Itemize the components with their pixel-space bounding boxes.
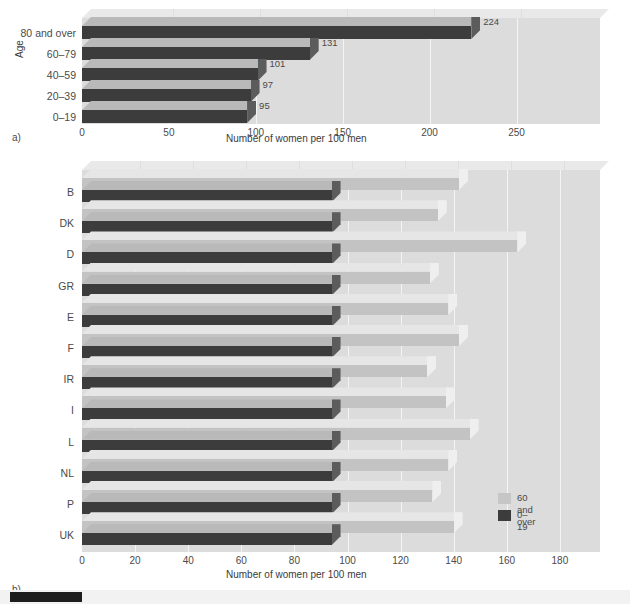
category-label: DK [10, 217, 74, 229]
gridline-top-face [173, 9, 174, 18]
bar-front-face [82, 533, 332, 545]
bar-top-face [82, 399, 341, 408]
gridline [517, 18, 518, 124]
gridline-top-face [434, 9, 435, 18]
gridline-top-face [352, 161, 353, 170]
panel-b-x-axis-title: Number of women per 100 men [226, 569, 367, 580]
gridline-top-face [347, 9, 348, 18]
bar-top-face [82, 181, 341, 190]
gridline-top-face [405, 161, 406, 170]
bar-front-face [82, 440, 332, 452]
x-tick-50: 50 [139, 127, 199, 138]
bar-top-face [82, 493, 341, 502]
x-tick-0: 0 [52, 127, 112, 138]
bar-top-face [82, 212, 341, 221]
category-label: F [10, 342, 74, 354]
bar-top-face [82, 294, 457, 303]
bar-top-face [82, 306, 341, 315]
category-label: 80 and over [6, 27, 76, 39]
panel-a-letter: a) [12, 132, 21, 143]
bar-top-face [82, 325, 468, 334]
data-label: 131 [322, 37, 338, 48]
panel-b-chart: BDKDGREFIRILNLPUK 0204060801001201401601… [0, 152, 630, 590]
bar-front-face [82, 408, 332, 420]
bar-front-face [82, 110, 247, 123]
bar-top-face [82, 356, 436, 365]
x-tick-20: 20 [105, 555, 165, 566]
category-label: 40–59 [6, 69, 76, 81]
category-label: L [10, 436, 74, 448]
bar-top-face [82, 462, 341, 471]
legend-label-0-19: 0–19 [517, 509, 528, 533]
data-label: 101 [270, 58, 286, 69]
category-label: 0–19 [6, 111, 76, 123]
bar-top-face [82, 59, 267, 68]
data-label: 224 [483, 16, 499, 27]
bar-top-face [82, 419, 479, 428]
gridline [560, 170, 561, 552]
gridline-top-face [140, 161, 141, 170]
bar-top-face [82, 263, 439, 272]
x-tick-40: 40 [158, 555, 218, 566]
category-label: I [10, 404, 74, 416]
bar-top-face [82, 337, 341, 346]
bar-front-face [82, 315, 332, 327]
bar-top-face [82, 387, 455, 396]
gridline-top-face [246, 161, 247, 170]
category-label: 20–39 [6, 90, 76, 102]
footer-strip [0, 590, 630, 604]
panel-a-chart: 2241311019795 80 and over60–7940–5920–39… [0, 0, 630, 148]
bar-top-face [82, 101, 256, 110]
bar-top-face [82, 524, 341, 533]
category-label: UK [10, 529, 74, 541]
bar-front-face [82, 89, 251, 102]
bar-top-face [82, 17, 480, 26]
footer-marker-bar [10, 592, 82, 602]
legend-swatch-60-and-over [498, 493, 511, 504]
x-tick-0: 0 [52, 555, 112, 566]
gridline-top-face [299, 161, 300, 170]
data-label: 95 [259, 100, 270, 111]
gridline-top-face [193, 161, 194, 170]
category-label: NL [10, 467, 74, 479]
bar-front-face [82, 221, 332, 233]
category-label: P [10, 498, 74, 510]
panel-a-plot-top-face [82, 9, 609, 18]
x-tick-80: 80 [264, 555, 324, 566]
bar-top-face [82, 431, 341, 440]
category-label: E [10, 311, 74, 323]
category-label: IR [10, 373, 74, 385]
bar-top-face [82, 38, 319, 47]
bar-top-face [82, 80, 260, 89]
category-label: D [10, 248, 74, 260]
gridline-top-face [511, 161, 512, 170]
bar-top-face [82, 243, 341, 252]
x-tick-140: 140 [424, 555, 484, 566]
panel-a-x-axis-title: Number of women per 100 men [226, 133, 367, 144]
bar-top-face [82, 169, 468, 178]
gridline-top-face [458, 161, 459, 170]
category-label: B [10, 186, 74, 198]
data-label: 97 [263, 79, 274, 90]
panel-a-y-axis-title: Age [14, 40, 25, 58]
bar-top-face [82, 275, 341, 284]
bar-front-face [82, 377, 332, 389]
gridline-top-face [260, 9, 261, 18]
gridline-top-face [564, 161, 565, 170]
panel-b-plot-top-face [82, 161, 609, 170]
category-label: GR [10, 280, 74, 292]
bar-top-face [82, 231, 526, 240]
x-tick-200: 200 [400, 127, 460, 138]
gridline-top-face [521, 9, 522, 18]
x-tick-120: 120 [371, 555, 431, 566]
bar-top-face [82, 512, 463, 521]
bar-top-face [82, 368, 341, 377]
x-tick-160: 160 [477, 555, 537, 566]
x-tick-180: 180 [530, 555, 590, 566]
legend-swatch-0-19 [498, 510, 511, 521]
gridline [454, 170, 455, 552]
bar-front-face [82, 68, 258, 81]
x-tick-100: 100 [318, 555, 378, 566]
bar-top-face [82, 200, 447, 209]
bar-top-face [82, 450, 457, 459]
